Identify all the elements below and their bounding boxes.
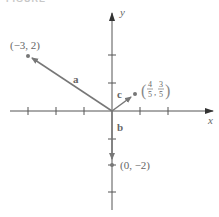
x-axis-label: x: [207, 114, 213, 126]
point-c-label: ( 4 5 , 3 5 ): [141, 80, 170, 100]
point-b: [110, 163, 114, 167]
svg-text:,: ,: [154, 87, 156, 97]
point-b-label: (0, −2): [120, 159, 150, 172]
vector-a: [32, 58, 112, 111]
vector-a-label: a: [73, 73, 79, 85]
svg-text:(: (: [141, 82, 146, 100]
svg-text:5: 5: [159, 90, 163, 99]
point-c: [133, 92, 137, 96]
point-a-label: (−3, 2): [10, 39, 40, 52]
vector-c-label: c: [117, 88, 122, 100]
svg-text:): ): [165, 82, 170, 100]
vector-b-label: b: [117, 121, 123, 133]
svg-text:4: 4: [148, 80, 152, 89]
vector-diagram: x y a (−3, 2) c ( 4 5 , 3 5 ) b (0, −2): [0, 0, 219, 217]
svg-text:5: 5: [148, 90, 152, 99]
y-axis-label: y: [119, 6, 125, 18]
svg-text:3: 3: [159, 80, 163, 89]
point-a: [26, 54, 30, 58]
